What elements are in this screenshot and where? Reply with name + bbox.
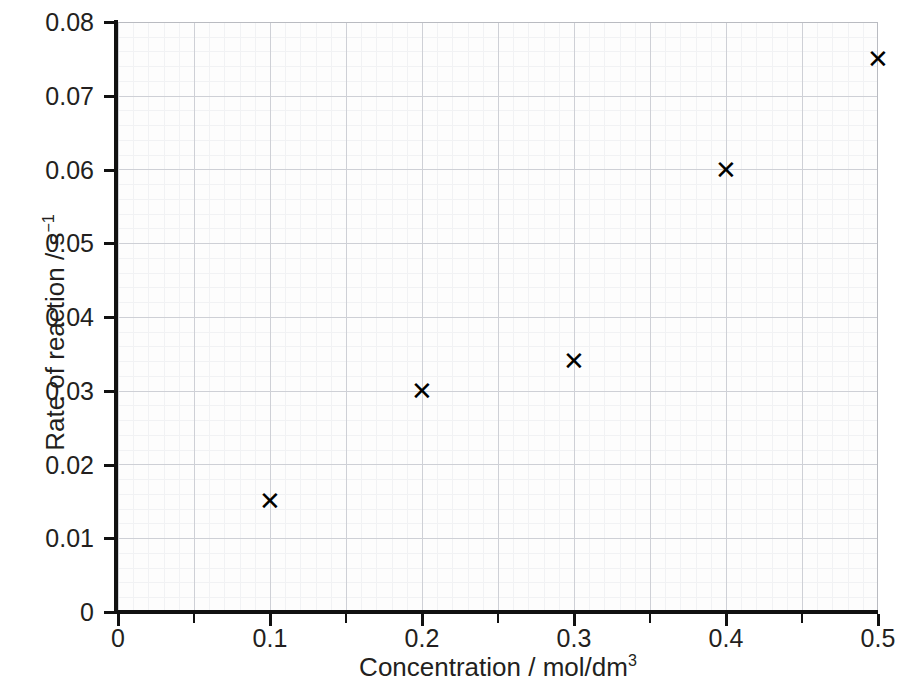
plot-area: ✕✕✕✕✕: [118, 22, 878, 612]
x-tick-label: 0.1: [253, 624, 288, 653]
data-point-marker: ✕: [563, 350, 585, 372]
data-point-marker: ✕: [715, 159, 737, 181]
y-tick-label: 0: [80, 598, 94, 627]
x-tick-minor: [345, 614, 347, 623]
y-tick-major: [104, 464, 115, 467]
y-axis-title: Rate of reaction / s−1: [40, 33, 71, 633]
x-axis-title: Concentration / mol/dm3: [118, 652, 878, 683]
data-point-marker: ✕: [411, 380, 433, 402]
y-tick-major: [104, 611, 115, 614]
data-point-marker: ✕: [259, 490, 281, 512]
x-tick-minor: [649, 614, 651, 623]
y-axis-title-text: Rate of reaction / s: [40, 233, 70, 451]
y-tick-major: [104, 537, 115, 540]
y-tick-major: [104, 390, 115, 393]
x-tick-minor: [193, 614, 195, 623]
y-tick-major: [104, 169, 115, 172]
y-tick-major: [104, 95, 115, 98]
plot-border-right: [877, 22, 878, 612]
x-tick-minor: [801, 614, 803, 623]
y-axis-title-superscript: −1: [39, 214, 57, 232]
x-axis-title-superscript: 3: [628, 651, 637, 669]
x-tick-label: 0.4: [709, 624, 744, 653]
major-gridlines: [118, 22, 878, 612]
chart-page: ✕✕✕✕✕ 00.10.20.30.40.5 00.010.020.030.04…: [0, 0, 908, 692]
y-tick-major: [104, 21, 115, 24]
y-tick-major: [104, 316, 115, 319]
x-tick-label: 0.5: [861, 624, 896, 653]
data-point-marker: ✕: [867, 48, 889, 70]
x-axis-title-text: Concentration / mol/dm: [359, 652, 628, 682]
x-axis-line: [114, 610, 878, 614]
x-tick-label: 0: [111, 624, 125, 653]
x-tick-label: 0.3: [557, 624, 592, 653]
x-tick-minor: [497, 614, 499, 623]
plot-border-top: [118, 22, 878, 23]
y-tick-major: [104, 242, 115, 245]
x-tick-label: 0.2: [405, 624, 440, 653]
